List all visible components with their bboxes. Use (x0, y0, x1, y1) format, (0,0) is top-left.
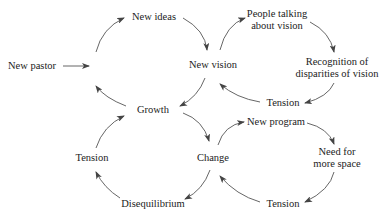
node-people-talking-line2: about vision (251, 20, 303, 32)
node-disequilibrium: Disequilibrium (121, 198, 185, 210)
arrow-newvision-to-growth (180, 78, 205, 106)
cycle-diagram: New pastor New ideas New vision Growth P… (0, 0, 388, 217)
node-need-space-line1: Need for (318, 146, 355, 158)
node-tension-bottom: Tension (266, 198, 299, 210)
arrows-layer (0, 0, 388, 217)
arrow-tension-to-newvision (220, 84, 260, 102)
node-people-talking-line1: People talking (247, 8, 307, 20)
node-new-vision: New vision (189, 59, 237, 71)
arrow-tension-to-change (220, 176, 260, 202)
arrow-people-to-recognition (310, 22, 334, 52)
arrow-growth-to-newideas (96, 18, 124, 52)
node-tension-top: Tension (266, 97, 299, 109)
node-recognition-line1: Recognition of (306, 56, 369, 68)
arrow-change-to-newprogram (218, 122, 244, 145)
node-new-pastor: New pastor (8, 60, 56, 72)
arrow-growth-to-left (96, 86, 126, 106)
node-new-program: New program (247, 116, 305, 128)
arrow-tension-to-growth (96, 116, 124, 148)
arrow-change-to-disequilibrium (185, 170, 210, 199)
arrow-need-to-tension (305, 172, 334, 202)
arrow-newvision-to-people (220, 18, 245, 50)
node-growth: Growth (137, 104, 169, 116)
arrow-newprogram-to-need (307, 123, 334, 144)
node-new-ideas: New ideas (132, 11, 176, 23)
arrow-recognition-to-tension (305, 83, 334, 103)
arrow-growth-to-change (183, 113, 209, 141)
node-change: Change (197, 152, 229, 164)
node-tension-left: Tension (75, 152, 108, 164)
node-recognition-line2: disparities of vision (296, 68, 379, 80)
node-need-space-line2: more space (313, 158, 361, 170)
arrow-newideas-to-newvision (183, 18, 207, 50)
arrow-disequilibrium-to-tension (96, 172, 120, 198)
